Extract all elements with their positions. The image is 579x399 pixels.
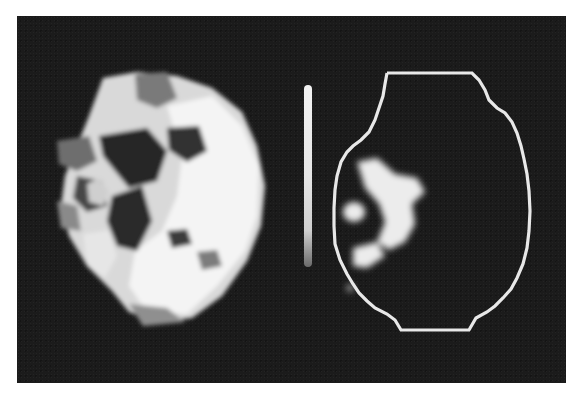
region-outline [334, 73, 530, 330]
scan-figure-panel [17, 16, 566, 383]
right-scan-image [17, 16, 566, 383]
